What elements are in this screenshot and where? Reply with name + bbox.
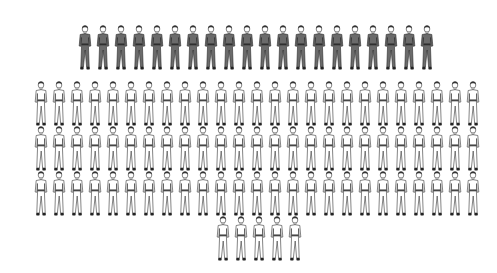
person-icon-light	[105, 125, 121, 173]
person-icon-light	[447, 80, 463, 128]
person-icon-dark	[113, 24, 129, 72]
person-icon-dark	[167, 24, 183, 72]
person-icon-light	[357, 80, 373, 128]
person-icon-light	[33, 125, 49, 173]
person-icon-light	[249, 170, 265, 218]
person-icon-light	[321, 80, 337, 128]
person-icon-dark	[347, 24, 363, 72]
person-icon-light	[105, 170, 121, 218]
person-icon-light	[339, 80, 355, 128]
person-icon-dark	[329, 24, 345, 72]
person-icon-dark	[77, 24, 93, 72]
person-icon-light	[177, 125, 193, 173]
person-icon-light	[411, 170, 427, 218]
person-icon-light	[429, 170, 445, 218]
person-icon-light	[375, 125, 391, 173]
person-icon-dark	[203, 24, 219, 72]
person-icon-light	[69, 80, 85, 128]
person-icon-light	[213, 125, 229, 173]
person-icon-light	[69, 170, 85, 218]
person-icon-light	[159, 80, 175, 128]
person-icon-dark	[365, 24, 381, 72]
person-icon-dark	[95, 24, 111, 72]
person-icon-light	[287, 215, 303, 263]
person-icon-light	[429, 80, 445, 128]
person-icon-light	[215, 215, 231, 263]
person-icon-light	[231, 170, 247, 218]
person-icon-light	[87, 170, 103, 218]
person-icon-light	[213, 170, 229, 218]
person-icon-light	[87, 125, 103, 173]
person-icon-dark	[131, 24, 147, 72]
person-icon-light	[141, 170, 157, 218]
person-icon-light	[51, 80, 67, 128]
person-icon-light	[303, 80, 319, 128]
person-icon-dark	[419, 24, 435, 72]
person-icon-light	[231, 80, 247, 128]
person-icon-dark	[383, 24, 399, 72]
person-icon-light	[105, 80, 121, 128]
person-icon-light	[267, 125, 283, 173]
person-icon-light	[249, 125, 265, 173]
person-icon-light	[447, 125, 463, 173]
person-icon-light	[303, 170, 319, 218]
person-icon-light	[141, 125, 157, 173]
person-icon-light	[393, 125, 409, 173]
person-icon-dark	[257, 24, 273, 72]
person-icon-light	[357, 170, 373, 218]
person-icon-light	[393, 80, 409, 128]
person-icon-light	[123, 170, 139, 218]
person-icon-dark	[401, 24, 417, 72]
person-icon-light	[375, 170, 391, 218]
person-icon-light	[195, 170, 211, 218]
person-icon-light	[429, 125, 445, 173]
person-icon-light	[465, 170, 481, 218]
person-icon-dark	[221, 24, 237, 72]
person-icon-dark	[275, 24, 291, 72]
person-icon-dark	[293, 24, 309, 72]
person-icon-light	[447, 170, 463, 218]
person-icon-light	[87, 80, 103, 128]
person-icon-light	[393, 170, 409, 218]
person-icon-light	[285, 170, 301, 218]
person-icon-light	[339, 170, 355, 218]
person-icon-light	[213, 80, 229, 128]
person-icon-light	[251, 215, 267, 263]
person-icon-light	[231, 125, 247, 173]
person-icon-dark	[149, 24, 165, 72]
person-icon-light	[33, 170, 49, 218]
person-icon-light	[123, 125, 139, 173]
person-icon-light	[303, 125, 319, 173]
person-icon-dark	[185, 24, 201, 72]
person-icon-light	[195, 125, 211, 173]
person-icon-light	[465, 80, 481, 128]
person-icon-light	[69, 125, 85, 173]
person-icon-dark	[239, 24, 255, 72]
person-icon-light	[195, 80, 211, 128]
person-icon-light	[51, 125, 67, 173]
person-icon-light	[357, 125, 373, 173]
person-icon-light	[177, 170, 193, 218]
person-icon-light	[267, 80, 283, 128]
person-icon-light	[411, 125, 427, 173]
person-icon-light	[411, 80, 427, 128]
person-icon-light	[177, 80, 193, 128]
person-icon-light	[159, 170, 175, 218]
person-icon-light	[249, 80, 265, 128]
person-icon-light	[269, 215, 285, 263]
person-icon-light	[285, 125, 301, 173]
person-icon-light	[339, 125, 355, 173]
person-icon-light	[123, 80, 139, 128]
person-icon-light	[51, 170, 67, 218]
person-icon-light	[285, 80, 301, 128]
person-icon-dark	[311, 24, 327, 72]
person-icon-light	[141, 80, 157, 128]
person-icon-light	[465, 125, 481, 173]
person-icon-light	[33, 80, 49, 128]
person-icon-light	[267, 170, 283, 218]
person-icon-light	[375, 80, 391, 128]
person-icon-light	[233, 215, 249, 263]
person-icon-light	[321, 170, 337, 218]
person-icon-light	[159, 125, 175, 173]
person-icon-light	[321, 125, 337, 173]
